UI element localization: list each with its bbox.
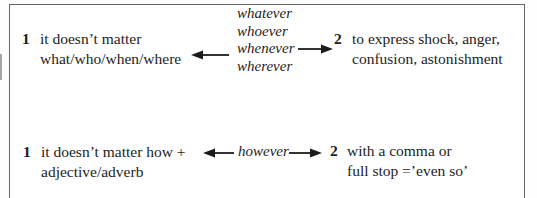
right-arrow-icon bbox=[298, 43, 333, 55]
keyword: however bbox=[238, 142, 289, 161]
keyword-stack: whatever whoever whenever wherever bbox=[237, 5, 294, 75]
keyword: whatever bbox=[237, 5, 294, 23]
grammar-reference-panel: 1 it doesn’t matter what/who/when/where … bbox=[0, 0, 537, 198]
usage-text-left: it doesn’t matter how + adjective/adverb bbox=[41, 142, 186, 181]
text-line: with a comma or bbox=[347, 141, 468, 161]
usage-number: 2 bbox=[334, 29, 342, 48]
usage-text-right: to express shock, anger, confusion, asto… bbox=[352, 29, 503, 68]
usage-text-right: with a comma or full stop =’even so’ bbox=[347, 141, 468, 180]
text-line: confusion, astonishment bbox=[352, 49, 503, 69]
usage-text-left: it doesn’t matter what/who/when/where bbox=[40, 29, 181, 68]
text-line: full stop =’even so’ bbox=[347, 161, 468, 181]
left-arrow-icon bbox=[191, 49, 229, 61]
text-line: to express shock, anger, bbox=[352, 29, 503, 49]
usage-number: 1 bbox=[22, 29, 30, 48]
keyword: whoever bbox=[237, 23, 294, 41]
text-line: it doesn’t matter bbox=[40, 29, 181, 49]
text-line: adjective/adverb bbox=[41, 162, 186, 182]
keyword: whenever bbox=[237, 40, 294, 58]
usage-number: 1 bbox=[23, 142, 31, 161]
text-line: what/who/when/where bbox=[40, 49, 181, 69]
keyword: wherever bbox=[237, 58, 294, 76]
right-arrow-icon bbox=[289, 147, 322, 159]
usage-number: 2 bbox=[330, 141, 338, 160]
text-line: it doesn’t matter how + bbox=[41, 142, 186, 162]
left-arrow-icon bbox=[203, 147, 234, 159]
page-edge-line bbox=[0, 54, 2, 80]
